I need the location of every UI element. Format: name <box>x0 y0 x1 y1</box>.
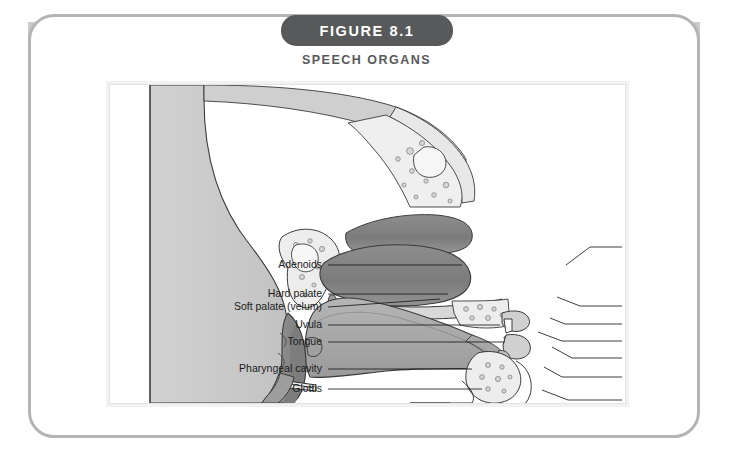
figure-image-panel: AdenoidsHard palateSoft palate (velum)Uv… <box>109 84 626 404</box>
neck-contour <box>410 381 474 403</box>
skull-upper <box>204 85 475 207</box>
figure-subtitle: SPEECH ORGANS <box>0 53 733 67</box>
leader-nasal-passages <box>566 247 622 265</box>
label-pharyngeal-cavity: Pharyngeal cavity <box>239 363 322 374</box>
label-glottis: Glottis <box>292 383 322 394</box>
leader-frenum <box>544 367 622 377</box>
leader-lower-lip <box>552 347 622 358</box>
leader-teeth <box>538 332 622 341</box>
leader-alveolar-ridge <box>557 297 622 306</box>
figure-root: FIGURE 8.1 SPEECH ORGANS <box>0 0 733 458</box>
figure-number-label: FIGURE 8.1 <box>320 23 415 39</box>
soft-palate-velum <box>320 245 471 306</box>
figure-number-badge: FIGURE 8.1 <box>281 15 453 46</box>
label-tongue: Tongue <box>288 336 322 347</box>
leader-mandible-jaw <box>542 390 622 400</box>
label-adenoids: Adenoids <box>278 259 322 270</box>
head-silhouette <box>150 85 288 403</box>
label-soft-palate: Soft palate (velum) <box>234 301 322 312</box>
label-uvula: Uvula <box>295 319 322 330</box>
label-hard-palate: Hard palate <box>268 288 322 299</box>
leader-upper-lip <box>550 318 622 324</box>
speech-organs-illustration <box>110 85 626 404</box>
